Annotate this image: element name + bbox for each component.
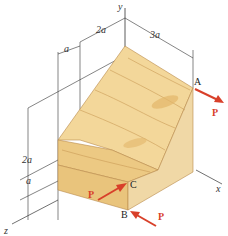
svg-text:3a: 3a: [149, 29, 160, 40]
svg-text:a: a: [64, 43, 69, 54]
statics-figure: y a 2a 3a 2a a z x A C B P P P: [0, 0, 228, 236]
svg-text:2a: 2a: [96, 24, 106, 35]
svg-text:x: x: [215, 183, 221, 194]
point-A-label: A: [194, 76, 202, 87]
svg-text:z: z: [3, 225, 8, 236]
point-C-label: C: [130, 179, 137, 190]
y-axis-label: y: [117, 1, 123, 12]
z-axis: [12, 200, 58, 224]
force-arrow-B: [135, 214, 156, 226]
svg-text:P: P: [212, 107, 218, 118]
point-B-label: B: [121, 209, 128, 220]
dim-a-top: [58, 46, 80, 54]
svg-text:P: P: [158, 211, 164, 222]
svg-text:P: P: [88, 189, 94, 200]
x-axis: [196, 170, 222, 184]
svg-text:2a: 2a: [22, 154, 32, 165]
